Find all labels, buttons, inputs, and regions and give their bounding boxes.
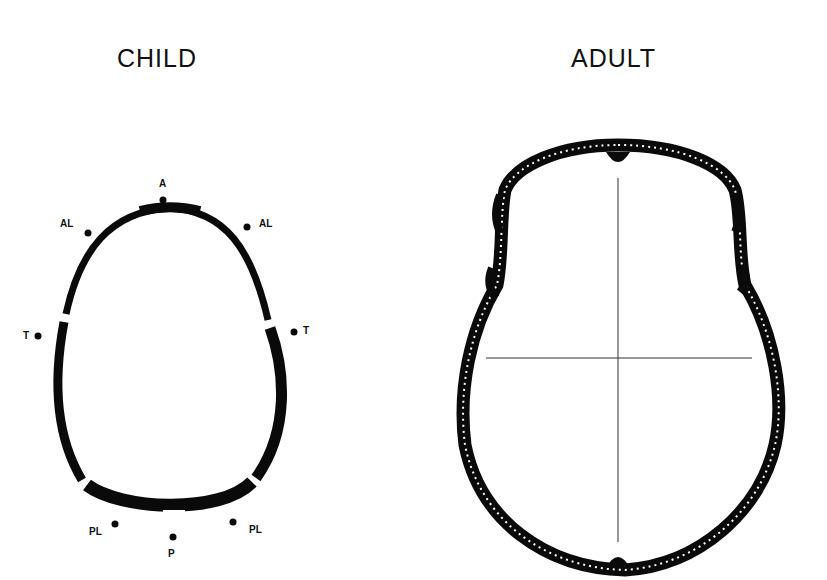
child-right-temporal-bone [256,328,282,478]
label-pl-right: PL [249,524,262,535]
point-pl-right [230,519,237,526]
label-p: P [168,548,175,559]
label-pl-left: PL [89,526,102,537]
frontal-crest [606,152,630,162]
label-t-left: T [23,330,29,341]
point-al-right [244,224,251,231]
point-pl-left [112,521,119,528]
point-p [170,534,177,541]
child-left-temporal-bone [58,322,82,480]
label-t-right: T [303,325,309,336]
child-skull [35,197,298,541]
label-al-right: AL [259,218,272,229]
label-al-left: AL [60,218,73,229]
label-a: A [159,178,166,189]
point-t-right [291,329,298,336]
occipital-protuberance [606,557,630,568]
adult-skull [463,145,779,570]
child-frontal-bone [66,208,268,320]
point-a [160,197,167,204]
skull-diagram [0,0,827,580]
child-occipital-bone [87,482,252,505]
point-al-left [85,230,92,237]
point-t-left [35,333,42,340]
